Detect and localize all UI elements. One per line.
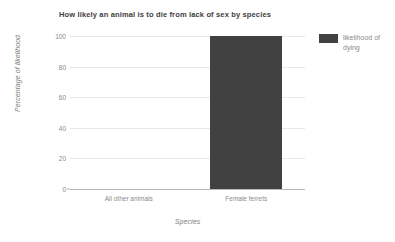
- chart-container: How likely an animal is to die from lack…: [0, 0, 395, 242]
- y-axis-ticks: 020406080100: [38, 36, 66, 189]
- y-tick-label: 60: [40, 94, 66, 101]
- legend-swatch-likelihood-of-dying: [319, 34, 338, 43]
- y-tick-label: 20: [40, 155, 66, 162]
- chart-title: How likely an animal is to die from lack…: [0, 10, 330, 19]
- x-tick-label: All other animals: [105, 195, 153, 202]
- y-tick-label: 0: [40, 186, 66, 193]
- legend-label-likelihood-of-dying: likelihood of dying: [343, 33, 391, 53]
- y-tick-label: 80: [40, 63, 66, 70]
- plot-area: [70, 36, 305, 189]
- x-tick-label: Female ferrets: [225, 195, 267, 202]
- y-tick-label: 100: [40, 33, 66, 40]
- y-axis-title: Percentage of likelihood: [14, 35, 21, 112]
- y-tick-label: 40: [40, 124, 66, 131]
- bar[interactable]: [210, 36, 282, 189]
- x-axis-line: [70, 189, 305, 190]
- legend: likelihood of dying: [319, 33, 391, 53]
- x-axis-title: Species: [70, 218, 305, 225]
